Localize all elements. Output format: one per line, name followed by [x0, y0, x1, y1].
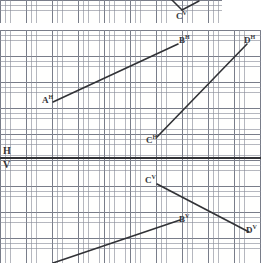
point-label-a-h: AH — [42, 96, 53, 105]
point-label-d-v: DV — [246, 226, 257, 235]
top-panel-strokes — [0, 0, 222, 23]
point-label-c-v-top: CV — [176, 12, 187, 21]
superscript-projection-marker: H — [251, 34, 256, 40]
segment-CH-DH — [157, 44, 247, 137]
main-projection-panel: H V AHBHCHDHCVBVDV — [0, 30, 261, 263]
superscript-projection-marker: V — [185, 213, 189, 219]
point-label-b-h: BH — [179, 36, 190, 45]
top-partial-panel: CV — [0, 0, 222, 23]
superscript-projection-marker: V — [183, 10, 187, 16]
point-label-b-v: BV — [179, 215, 189, 224]
left-ray — [166, 0, 182, 10]
plane-label-h: H — [3, 146, 11, 156]
segment-CV-DV — [157, 184, 249, 232]
projection-figure-root: CV H V AHBHCHDHCVBVDV — [0, 0, 261, 263]
point-label-d-h: DH — [244, 36, 255, 45]
superscript-projection-marker: V — [253, 224, 257, 230]
plane-label-v: V — [3, 160, 10, 170]
superscript-projection-marker: H — [185, 34, 190, 40]
main-panel-strokes — [0, 30, 261, 263]
right-ray — [182, 1, 199, 10]
point-label-c-h: CH — [146, 136, 157, 145]
segment-AV-BV — [53, 220, 180, 263]
superscript-projection-marker: V — [152, 174, 156, 180]
point-label-c-v: CV — [145, 176, 156, 185]
segment-AH-BH — [53, 44, 178, 102]
superscript-projection-marker: H — [153, 134, 158, 140]
superscript-projection-marker: H — [49, 94, 54, 100]
